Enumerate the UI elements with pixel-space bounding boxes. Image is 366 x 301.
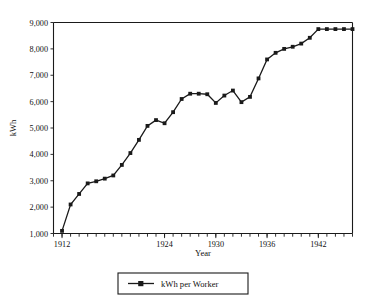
data-point-marker bbox=[120, 163, 124, 167]
data-point-marker bbox=[146, 124, 150, 128]
y-tick-label: 9,000 bbox=[30, 19, 48, 28]
data-point-marker bbox=[69, 203, 73, 207]
data-point-marker bbox=[154, 118, 158, 122]
data-point-marker bbox=[334, 27, 338, 31]
data-point-marker bbox=[103, 177, 107, 181]
data-point-marker bbox=[282, 47, 286, 51]
y-tick-label: 8,000 bbox=[30, 45, 48, 54]
data-point-marker bbox=[86, 181, 90, 185]
data-point-marker bbox=[316, 27, 320, 31]
x-tick-label: 1924 bbox=[156, 240, 172, 249]
y-tick-label: 7,000 bbox=[30, 71, 48, 80]
y-axis-title: kWh bbox=[8, 119, 18, 136]
data-point-marker bbox=[351, 27, 355, 31]
x-tick-label: 1942 bbox=[310, 240, 326, 249]
data-point-marker bbox=[77, 192, 81, 196]
x-axis-tick-marks bbox=[54, 234, 353, 239]
data-point-marker bbox=[222, 94, 226, 98]
chart-legend: kWh per Worker bbox=[118, 273, 248, 294]
data-point-marker bbox=[111, 174, 115, 178]
data-point-marker bbox=[291, 45, 295, 49]
data-point-marker bbox=[60, 229, 64, 233]
series-line-kwh-per-worker bbox=[62, 29, 352, 231]
y-tick-label: 1,000 bbox=[30, 230, 48, 239]
data-point-marker bbox=[137, 138, 141, 142]
data-point-marker bbox=[231, 89, 235, 93]
x-axis-tick-labels: 19121924193019361942 bbox=[54, 240, 327, 249]
x-axis-title: Year bbox=[195, 248, 211, 258]
data-point-marker bbox=[163, 121, 167, 125]
data-point-marker bbox=[197, 92, 201, 96]
line-chart: 1,0002,0003,0004,0005,0006,0007,0008,000… bbox=[0, 0, 366, 301]
data-point-marker bbox=[171, 110, 175, 114]
y-tick-label: 3,000 bbox=[30, 177, 48, 186]
legend-marker-sample bbox=[138, 281, 143, 286]
y-tick-label: 5,000 bbox=[30, 124, 48, 133]
data-point-marker bbox=[274, 51, 278, 55]
data-point-marker bbox=[257, 77, 261, 81]
data-point-marker bbox=[180, 97, 184, 101]
legend-label-kwh-per-worker: kWh per Worker bbox=[161, 279, 219, 289]
data-point-marker bbox=[128, 151, 132, 155]
y-tick-label: 4,000 bbox=[30, 150, 48, 159]
data-point-marker bbox=[205, 92, 209, 96]
data-point-marker bbox=[94, 179, 98, 183]
data-point-marker bbox=[188, 92, 192, 96]
x-tick-label: 1936 bbox=[259, 240, 275, 249]
x-tick-label: 1912 bbox=[54, 240, 70, 249]
data-point-marker bbox=[325, 27, 329, 31]
y-tick-label: 6,000 bbox=[30, 98, 48, 107]
data-point-marker bbox=[308, 36, 312, 40]
data-point-marker bbox=[299, 42, 303, 46]
data-point-marker bbox=[240, 100, 244, 104]
series-markers-kwh-per-worker bbox=[60, 27, 354, 233]
data-point-marker bbox=[265, 58, 269, 62]
y-tick-label: 2,000 bbox=[30, 203, 48, 212]
data-point-marker bbox=[248, 95, 252, 99]
y-axis-tick-labels: 1,0002,0003,0004,0005,0006,0007,0008,000… bbox=[30, 19, 48, 239]
data-point-marker bbox=[342, 27, 346, 31]
chart-figure: 1,0002,0003,0004,0005,0006,0007,0008,000… bbox=[0, 0, 366, 301]
data-point-marker bbox=[214, 101, 218, 105]
